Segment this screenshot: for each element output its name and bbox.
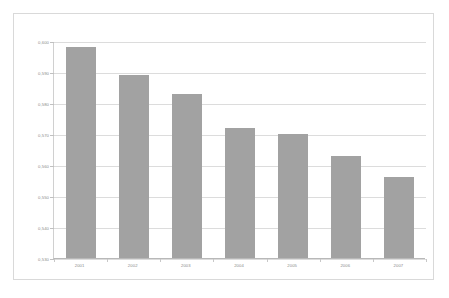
gridline (54, 104, 426, 105)
y-axis-tick-label: 0,590 (38, 71, 49, 76)
x-axis-category-label: 2002 (128, 263, 138, 268)
x-axis-tick (320, 259, 321, 262)
x-axis-tick (426, 259, 427, 262)
bar (225, 128, 255, 258)
x-axis-category-label: 2005 (287, 263, 297, 268)
x-axis-tick (160, 259, 161, 262)
x-axis-category-label: 2003 (181, 263, 191, 268)
bar (384, 177, 414, 258)
gridline (54, 259, 426, 260)
x-axis-category-label: 2004 (234, 263, 244, 268)
y-axis-tick-label: 0,600 (38, 40, 49, 45)
y-axis-tick-label: 0,540 (38, 226, 49, 231)
x-axis-category-label: 2001 (75, 263, 85, 268)
y-axis-tick-label: 0,550 (38, 195, 49, 200)
x-axis-tick (213, 259, 214, 262)
bar (172, 94, 202, 258)
y-axis-tick (50, 228, 54, 229)
y-axis-tick (50, 135, 54, 136)
y-axis-tick (50, 197, 54, 198)
x-axis-tick (107, 259, 108, 262)
plot-area (53, 42, 425, 259)
y-axis-tick-label: 0,530 (38, 257, 49, 262)
y-axis-tick (50, 42, 54, 43)
x-axis-category-label: 2006 (340, 263, 350, 268)
bar (119, 75, 149, 258)
y-axis-tick-label: 0,580 (38, 102, 49, 107)
x-axis-tick (54, 259, 55, 262)
x-axis-tick (373, 259, 374, 262)
bar (278, 134, 308, 258)
y-axis-tick (50, 104, 54, 105)
chart-screenshot: 0,6000,5900,5800,5700,5600,5500,5400,530… (0, 0, 449, 298)
y-axis-label-group: 0,6000,5900,5800,5700,5600,5500,5400,530 (13, 42, 49, 259)
bar (66, 47, 96, 258)
y-axis-tick (50, 73, 54, 74)
y-axis-tick-label: 0,570 (38, 133, 49, 138)
y-axis-tick-label: 0,560 (38, 164, 49, 169)
gridline (54, 73, 426, 74)
gridline (54, 42, 426, 43)
x-axis-tick (267, 259, 268, 262)
x-axis-category-label: 2007 (394, 263, 404, 268)
bar (331, 156, 361, 258)
y-axis-tick (50, 166, 54, 167)
